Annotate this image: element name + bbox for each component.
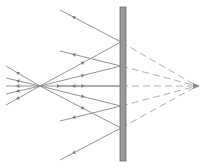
source-ray — [6, 86, 40, 105]
arrowhead-icon — [81, 94, 85, 98]
source-extension-rays — [6, 66, 40, 105]
arrowhead-icon — [72, 115, 76, 119]
incident-ray — [40, 86, 121, 128]
incident-ray — [40, 86, 121, 106]
arrowhead-icon — [81, 74, 85, 78]
virtual-ray-dashed — [121, 86, 197, 128]
incident-rays — [40, 42, 121, 128]
reflected-rays — [60, 10, 121, 160]
reflected-ray — [60, 10, 121, 42]
virtual-rays — [121, 42, 197, 128]
incident-ray — [40, 42, 121, 86]
reflected-ray — [60, 106, 121, 121]
arrowhead-icon — [72, 53, 76, 57]
reflected-ray — [60, 51, 121, 66]
virtual-image-point — [193, 83, 200, 89]
source-ray — [6, 78, 40, 86]
plane-mirror — [120, 7, 126, 161]
source-ray — [6, 66, 40, 86]
incident-ray — [40, 66, 121, 86]
arrowhead-icon — [57, 84, 60, 88]
virtual-ray-dashed — [121, 66, 197, 86]
virtual-ray-dashed — [121, 86, 197, 106]
arrowhead-icon — [16, 89, 20, 93]
arrowhead-icon — [72, 84, 75, 88]
virtual-ray-dashed — [121, 42, 197, 86]
mirror-reflection-diagram — [0, 0, 210, 166]
arrowhead-icon — [16, 84, 19, 88]
arrowhead-icon — [16, 79, 20, 83]
reflected-ray — [60, 128, 121, 160]
source-ray — [6, 86, 40, 94]
